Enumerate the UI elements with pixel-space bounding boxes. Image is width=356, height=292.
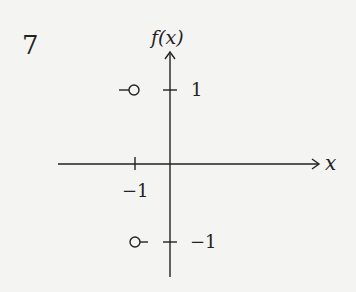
x-tick-label-neg1: −1 — [122, 180, 149, 201]
y-tick-label-neg1: −1 — [190, 231, 217, 252]
y-tick-label-1: 1 — [191, 79, 202, 100]
open-circle-upper-icon — [129, 85, 139, 95]
x-axis-label: x — [325, 151, 336, 175]
y-axis-label: f(x) — [151, 26, 184, 48]
open-circle-lower-icon — [130, 237, 140, 247]
